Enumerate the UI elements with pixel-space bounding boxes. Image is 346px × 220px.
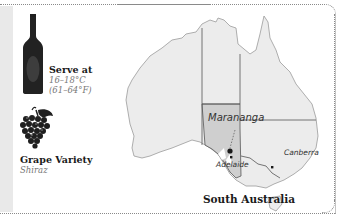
- map-label-canberra: Canberra: [284, 148, 319, 157]
- serve-temp-fahrenheit: (61–64°F): [49, 85, 92, 95]
- canberra-marker: [271, 166, 273, 168]
- left-margin-strip: [0, 6, 13, 212]
- grape-variety-value: Shiraz: [20, 165, 93, 175]
- grapes-icon: [16, 106, 56, 154]
- marananga-marker: [227, 148, 232, 153]
- region-title: South Australia: [203, 193, 295, 205]
- map-frame-right-edge: [334, 14, 335, 200]
- map-label-marananga: Marananga: [208, 112, 264, 123]
- adelaide-marker: [230, 156, 232, 158]
- wine-bottle-icon: [22, 14, 44, 98]
- grape-variety-info: Grape Variety Shiraz: [20, 154, 93, 175]
- serve-at-info: Serve at 16–18°C (61–64°F): [49, 64, 92, 95]
- map-label-adelaide: Adelaide: [216, 160, 249, 169]
- serve-temp-celsius: 16–18°C: [49, 75, 92, 85]
- serve-at-title: Serve at: [49, 64, 92, 75]
- grape-variety-title: Grape Variety: [20, 154, 93, 165]
